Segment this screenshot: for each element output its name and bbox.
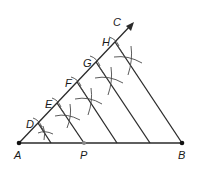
label-h: H: [102, 36, 110, 48]
label-d: D: [26, 118, 34, 130]
label-g: G: [83, 57, 92, 69]
label-p: P: [80, 149, 88, 161]
label-c: C: [113, 16, 121, 28]
parallel-line-g: [96, 62, 150, 143]
point-b: [180, 141, 185, 146]
construction-diagram: A B P C D E F G H: [0, 0, 201, 170]
point-p: [82, 141, 86, 145]
ray-ac: [19, 24, 132, 143]
label-a: A: [13, 149, 21, 161]
label-e: E: [45, 98, 53, 110]
label-b: B: [178, 149, 185, 161]
point-a: [17, 141, 22, 146]
